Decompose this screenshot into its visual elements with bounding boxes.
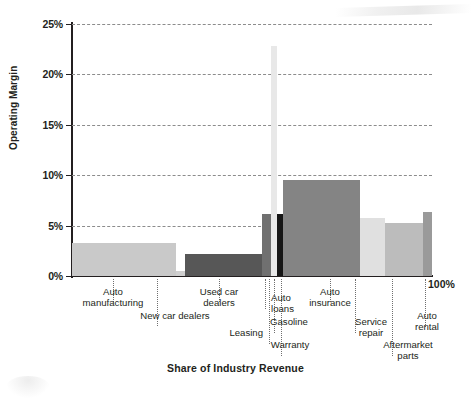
y-tick-label-20: 20% — [43, 68, 63, 80]
category-label-auto-loans: Auto loans — [271, 292, 294, 315]
gridline-25 — [72, 24, 432, 25]
y-tick-label-15: 15% — [43, 119, 63, 131]
category-label-auto-manufacturing: Auto manufacturing — [83, 286, 144, 309]
bar-used-car-dealers — [185, 254, 261, 276]
category-label-used-car-dealers: Used car dealers — [200, 286, 238, 309]
bar-auto-manufacturing — [72, 243, 176, 276]
scan-smudge-artifact — [6, 376, 50, 398]
leader-line — [265, 279, 266, 309]
y-tick-mark — [66, 175, 72, 176]
y-tick-label-10: 10% — [43, 169, 63, 181]
y-tick-mark — [66, 74, 72, 75]
scan-streak-artifact — [336, 4, 471, 17]
bar-leasing — [262, 214, 271, 276]
category-label-aftermarket-parts: Aftermarket parts — [383, 339, 433, 362]
category-label-auto-rental: Auto rental — [415, 310, 439, 333]
category-label-auto-insurance: Auto insurance — [309, 286, 351, 309]
y-tick-label-5: 5% — [48, 220, 63, 232]
bar-service-repair — [360, 218, 385, 276]
category-label-new-car-dealers: New car dealers — [140, 310, 209, 321]
chart-title: Share of Industry Revenue — [0, 362, 471, 374]
gridline-10 — [72, 175, 432, 176]
y-tick-mark — [66, 125, 72, 126]
gridline-15 — [72, 125, 432, 126]
category-label-leasing: Leasing — [229, 327, 263, 338]
plot-area: 0%5%10%15%20%25% — [72, 24, 432, 276]
bar-aftermarket-parts — [385, 223, 423, 276]
bar-new-car-dealers — [176, 271, 185, 276]
bar-auto-insurance — [283, 180, 360, 276]
y-tick-label-25: 25% — [43, 18, 63, 30]
y-tick-label-0: 0% — [48, 270, 63, 282]
bar-auto-rental — [423, 212, 432, 277]
category-label-warranty: Warranty — [271, 339, 310, 350]
y-axis-title: Operating Margin — [8, 66, 19, 150]
category-label-gasoline: Gasoline — [270, 316, 308, 327]
x-axis-end-label: 100% — [428, 278, 455, 290]
y-tick-mark — [66, 24, 72, 25]
y-tick-mark — [66, 226, 72, 227]
gridline-20 — [72, 74, 432, 75]
y-tick-mark — [66, 276, 72, 277]
category-label-service-repair: Service repair — [355, 316, 387, 339]
leader-line — [269, 279, 270, 344]
